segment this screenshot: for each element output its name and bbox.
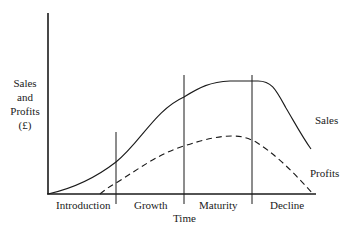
stage-label-maturity: Maturity	[199, 199, 238, 212]
sales-series-label: Sales	[315, 114, 338, 127]
y-axis-label-line-4: (£)	[4, 118, 46, 132]
y-axis-label-line-2: and	[4, 90, 46, 104]
y-axis-label-line-1: Sales	[4, 76, 46, 90]
stage-label-introduction: Introduction	[56, 199, 110, 212]
y-axis-label: Sales and Profits (£)	[4, 76, 46, 132]
stage-label-growth: Growth	[134, 199, 168, 212]
x-axis-label: Time	[173, 212, 196, 225]
profits-curve	[100, 136, 313, 194]
profits-series-label: Profits	[310, 167, 339, 180]
stage-label-decline: Decline	[270, 199, 304, 212]
y-axis-label-line-3: Profits	[4, 104, 46, 118]
sales-curve	[48, 81, 311, 194]
